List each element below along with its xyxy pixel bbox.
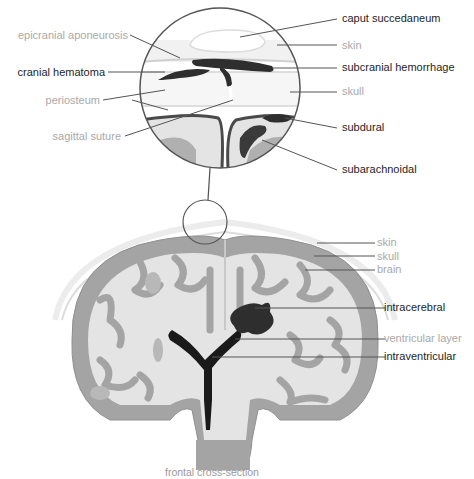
label-ventricular-layer: ventricular layer [384,332,462,345]
label-sagittal-suture: sagittal suture [53,130,121,143]
magnified-view [140,8,300,168]
label-cranial-hematoma: cranial hematoma [18,66,105,79]
label-caput-succedaneum: caput succedaneum [342,12,440,25]
label-skin-magnified: skin [342,39,362,52]
label-epicranial-aponeurosis: epicranial aponeurosis [18,29,128,42]
label-intraventricular: intraventricular [384,350,456,363]
label-skull-magnified: skull [342,85,364,98]
label-subarachnoidal: subarachnoidal [342,163,417,176]
frontal-cross-section [55,200,395,470]
label-brain: brain [377,263,401,276]
label-skin: skin [377,236,397,249]
label-skull: skull [377,250,399,263]
label-subdural: subdural [342,121,384,134]
label-subcranial-hemorrhage: subcranial hemorrhage [342,61,455,74]
label-intracerebral: intracerebral [384,301,445,314]
label-periosteum: periosteum [46,94,100,107]
figure-caption: frontal cross-section [165,466,259,479]
